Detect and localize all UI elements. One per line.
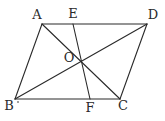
point-label-o: O [64,50,75,65]
parallelogram-diagram: AEDBFCO [0,0,165,121]
point-label-e: E [68,6,78,21]
segment-ef [73,24,90,99]
segments [15,24,147,99]
point-label-a: A [31,7,42,22]
point-label-c: C [118,98,128,113]
segment-dc [120,24,147,99]
segment-ba [15,24,42,99]
point-mark-b [17,101,19,103]
point-label-b: B [4,98,14,113]
point-label-d: D [148,7,158,22]
point-label-f: F [85,100,94,115]
